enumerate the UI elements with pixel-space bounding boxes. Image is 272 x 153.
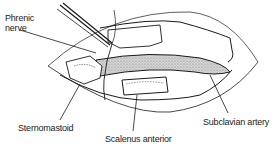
- label-subclavian-artery: Subclavian artery: [203, 117, 269, 127]
- label-scalenus-anterior: Scalenus anterior: [105, 134, 172, 144]
- leader-subclavian: [210, 75, 228, 113]
- anatomy-diagram: Phrenic nerve Sternomastoid Scalenus ant…: [0, 0, 272, 153]
- label-sternomastoid: Sternomastoid: [18, 123, 73, 133]
- leader-scalenus: [133, 95, 137, 131]
- leader-sternomastoid: [60, 84, 80, 120]
- retracted-muscle: [108, 25, 162, 48]
- subclavian-artery-shape: [96, 54, 230, 76]
- label-phrenic-nerve: Phrenic nerve: [5, 13, 34, 33]
- scalenus-anterior-shape: [122, 77, 168, 95]
- label-phrenic-line2: nerve: [5, 23, 34, 33]
- leader-phrenic: [20, 30, 96, 53]
- label-phrenic-line1: Phrenic: [5, 13, 34, 23]
